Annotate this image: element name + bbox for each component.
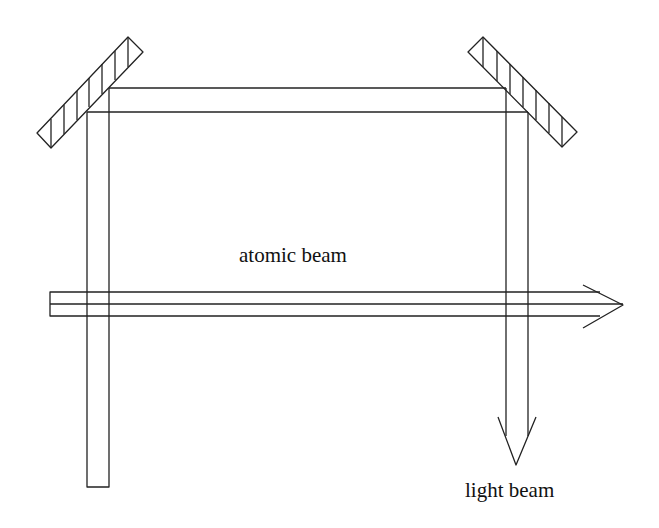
- left-mirror: [37, 37, 143, 148]
- atomic-beam-label: atomic beam: [239, 243, 347, 268]
- right-mirror: [468, 37, 577, 147]
- light-beam-label: light beam: [465, 478, 554, 503]
- atomic-beam: [50, 285, 623, 328]
- light-beam: [87, 88, 536, 487]
- light-beam-arrow-icon: [498, 417, 536, 465]
